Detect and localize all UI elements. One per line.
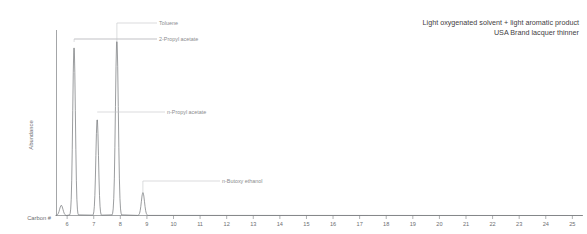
peak-label: Toluene bbox=[159, 20, 178, 26]
x-axis-tick-label: 12 bbox=[224, 221, 230, 227]
annotation-leader-line bbox=[117, 23, 157, 41]
annotation-leader-line bbox=[74, 39, 157, 42]
x-axis-tick-label: 19 bbox=[410, 221, 416, 227]
caption-line-2: USA Brand lacquer thinner bbox=[423, 28, 579, 38]
x-axis-tick-label: 16 bbox=[330, 221, 336, 227]
x-axis-tick-label: 10 bbox=[170, 221, 176, 227]
caption-line-1: Light oxygenated solvent + light aromati… bbox=[423, 18, 579, 28]
x-axis-tick-label: 24 bbox=[543, 221, 549, 227]
x-axis-tick-label: 23 bbox=[516, 221, 522, 227]
chromatogram-figure: AbundanceCarbon #67891011121314151617181… bbox=[0, 0, 587, 234]
x-axis-tick-label: 13 bbox=[250, 221, 256, 227]
y-axis-title: Abundance bbox=[28, 120, 34, 149]
x-axis-tick-label: 25 bbox=[569, 221, 575, 227]
x-axis-title: Carbon # bbox=[27, 215, 52, 221]
peak-label: n-Propyl acetate bbox=[167, 109, 206, 115]
x-axis-tick-label: 17 bbox=[357, 221, 363, 227]
x-axis-tick-label: 11 bbox=[197, 221, 203, 227]
annotation-leader-line bbox=[143, 181, 220, 195]
x-axis-tick-label: 18 bbox=[383, 221, 389, 227]
figure-caption: Light oxygenated solvent + light aromati… bbox=[423, 18, 579, 38]
x-axis-tick-label: 7 bbox=[92, 221, 95, 227]
x-axis-tick-label: 15 bbox=[303, 221, 309, 227]
x-axis-tick-label: 22 bbox=[489, 221, 495, 227]
x-axis-tick-label: 9 bbox=[145, 221, 148, 227]
chromatogram-trace bbox=[56, 42, 583, 216]
x-axis-tick-label: 21 bbox=[463, 221, 469, 227]
peak-label: 2-Propyl acetate bbox=[159, 36, 198, 42]
x-axis-tick-label: 8 bbox=[119, 221, 122, 227]
x-axis-tick-label: 6 bbox=[66, 221, 69, 227]
x-axis-tick-label: 20 bbox=[436, 221, 442, 227]
x-axis-tick-label: 14 bbox=[277, 221, 283, 227]
peak-label: n-Butoxy ethanol bbox=[222, 178, 262, 184]
